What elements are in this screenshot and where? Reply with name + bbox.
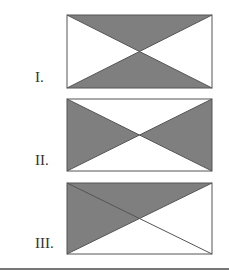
figure-i bbox=[67, 15, 212, 88]
figure-diagrams bbox=[0, 0, 229, 273]
figure-label-i: I. bbox=[35, 69, 44, 86]
divider-rule bbox=[0, 268, 229, 270]
figure-label-iii: III. bbox=[35, 235, 54, 252]
figure-ii bbox=[67, 99, 212, 171]
figure-iii bbox=[67, 183, 212, 254]
figure-label-ii: II. bbox=[35, 152, 49, 169]
